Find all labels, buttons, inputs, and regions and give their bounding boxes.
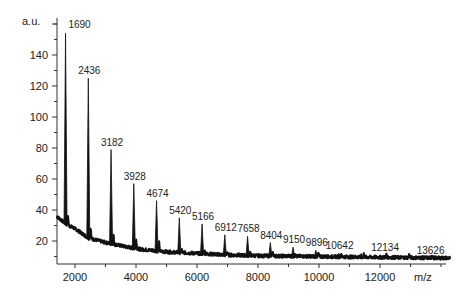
peak	[246, 236, 249, 255]
peak-label: 5166	[192, 211, 215, 222]
peak	[292, 247, 295, 256]
peak	[201, 224, 204, 254]
peak	[337, 253, 340, 256]
peak-label: 8404	[260, 230, 283, 241]
x-tick-label: 12000	[365, 271, 396, 283]
x-tick-label: 8000	[246, 271, 270, 283]
spectrum-plot: 2040608010012014020004000600080001000012…	[0, 0, 472, 300]
peak	[269, 243, 272, 256]
peak-label: 1690	[68, 19, 91, 30]
peak-label: 3928	[124, 171, 147, 182]
y-tick-label: 80	[36, 142, 48, 154]
x-tick-label: 4000	[124, 271, 148, 283]
peak-label: 6912	[215, 222, 238, 233]
x-tick-label: 2000	[63, 271, 87, 283]
peak-label: 3182	[101, 137, 124, 148]
peak-label: 4674	[146, 188, 169, 199]
peak	[314, 250, 317, 256]
y-tick-label: 60	[36, 173, 48, 185]
peak-label: 5420	[169, 205, 192, 216]
y-axis-label: a.u.	[22, 15, 40, 27]
peak	[223, 235, 226, 255]
peak	[178, 218, 181, 253]
peak-labels: 1690243631823928467454205166691276588404…	[68, 19, 445, 256]
y-tick-label: 40	[36, 204, 48, 216]
y-tick-label: 120	[30, 80, 48, 92]
peak	[110, 150, 113, 244]
peak	[132, 184, 135, 249]
peak-label: 7658	[237, 223, 260, 234]
peak	[360, 253, 363, 257]
peak-label: 9150	[283, 234, 306, 245]
y-tick-label: 100	[30, 111, 48, 123]
y-tick-label: 20	[36, 235, 48, 247]
x-axis-label: m/z	[414, 271, 432, 283]
x-tick-label: 10000	[304, 271, 335, 283]
y-tick-label: 140	[30, 49, 48, 61]
peak	[64, 33, 67, 223]
peak	[155, 201, 158, 251]
peak-label: 13626	[417, 245, 445, 256]
peak-label: 2436	[78, 65, 101, 76]
mass-spectrum-chart: 2040608010012014020004000600080001000012…	[0, 0, 472, 300]
x-tick-label: 6000	[185, 271, 209, 283]
peak	[87, 78, 90, 238]
peak-label: 12134	[371, 242, 399, 253]
peak-label: 10642	[326, 240, 354, 251]
